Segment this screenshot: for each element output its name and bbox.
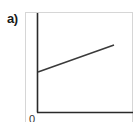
line-chart	[0, 0, 138, 122]
origin-label: 0	[29, 113, 35, 122]
data-series-line	[38, 45, 114, 72]
